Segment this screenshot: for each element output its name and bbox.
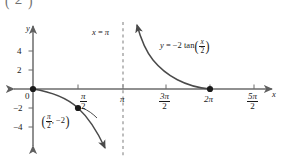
equation-close-paren: )	[206, 39, 210, 54]
x-tick-label-pi: π	[120, 95, 125, 104]
y-tick-label-4: 4	[17, 47, 22, 56]
annotation-comma: ,	[52, 115, 54, 125]
equation-equals: =	[166, 40, 171, 50]
origin-label: 0	[25, 92, 30, 101]
point-origin	[30, 86, 36, 92]
asymptote-label-value: π	[105, 27, 109, 37]
function-equation-label: y = −2 tan( x 2 )	[160, 38, 210, 55]
x-axis	[14, 85, 272, 90]
annotation-y-value: −2	[56, 115, 65, 125]
annotation-open-paren: (	[42, 114, 46, 129]
curve-right-branch	[137, 25, 210, 89]
fraction-3pi-over-2: 3π 2	[159, 92, 170, 112]
x-tick-label-5pi-over-2: 5π 2	[247, 92, 258, 112]
equation-function-name: tan	[184, 40, 194, 50]
point-2pi	[207, 86, 213, 92]
asymptote-label-equals: =	[98, 27, 103, 37]
point-coordinate-annotation: ( π 2 , −2)	[41, 113, 70, 130]
math-graph-figure: (2)	[0, 0, 286, 158]
asymptote-label: x = π	[92, 28, 109, 37]
x-tick-label-3pi-over-2: 3π 2	[159, 92, 170, 112]
fraction-5pi-over-2: 5π 2	[247, 92, 258, 112]
annotation-close-paren: )	[66, 114, 70, 129]
x-tick-label-2pi: 2π	[204, 95, 213, 104]
x-axis-name: x	[272, 90, 276, 99]
y-tick-label-minus-4: −4	[13, 123, 23, 132]
y-tick-label-minus-2: −2	[13, 104, 23, 113]
asymptote-label-variable: x	[92, 27, 96, 37]
x-tick-label-pi-over-2: π 2	[80, 92, 87, 112]
equation-open-paren: (	[195, 39, 199, 54]
y-axis-name: y	[26, 24, 30, 33]
equation-coefficient: −2	[173, 40, 182, 50]
y-tick-label-2: 2	[17, 66, 22, 75]
equation-lhs: y	[160, 40, 164, 50]
fraction-x-over-2: x 2	[199, 38, 205, 55]
fraction-pi-over-2: π 2	[80, 92, 87, 112]
graph-canvas	[0, 0, 286, 158]
